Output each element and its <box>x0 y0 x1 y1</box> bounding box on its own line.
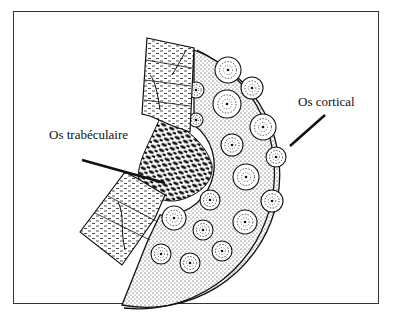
osteon <box>221 134 243 156</box>
osteon <box>200 190 220 210</box>
osteon <box>213 90 241 118</box>
osteon <box>233 210 257 234</box>
cortical-pointer <box>290 115 325 146</box>
osteon <box>151 244 171 264</box>
osteon <box>215 57 241 83</box>
osteon <box>212 241 232 261</box>
osteon <box>193 220 213 240</box>
label-cortical: Os cortical <box>298 94 355 110</box>
osteon <box>162 206 186 230</box>
osteon <box>241 77 263 99</box>
osteon <box>180 253 200 273</box>
bone-cross-section <box>0 0 394 317</box>
label-trabecular: Os trabéculaire <box>49 127 128 143</box>
osteon <box>261 190 283 212</box>
osteon <box>233 164 259 190</box>
upper-lamellar-block <box>142 38 194 132</box>
osteon <box>250 114 276 140</box>
osteon <box>266 147 286 167</box>
